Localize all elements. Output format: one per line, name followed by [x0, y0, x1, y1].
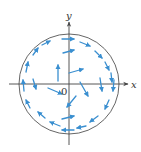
vector-arrow-icon [23, 80, 24, 91]
x-axis-label: x [131, 79, 137, 90]
vector-arrow-icon [100, 78, 102, 91]
vector-arrow-icon [69, 69, 83, 73]
vector-arrow-icon [50, 122, 60, 126]
vector-arrow-icon [26, 62, 28, 72]
vector-arrow-icon [111, 73, 112, 82]
vector-arrow-icon [67, 96, 76, 107]
vector-arrow-icon [105, 100, 109, 109]
vector-arrow-icon [113, 80, 114, 91]
vector-arrow-icon [62, 116, 74, 119]
vector-arrow-icon [77, 126, 86, 128]
vector-arrows [23, 39, 114, 130]
vector-field-plot: x y 0 [0, 0, 141, 152]
vector-arrow-icon [38, 112, 45, 118]
vector-field-figure: x y 0 [0, 0, 141, 152]
origin-label: 0 [61, 86, 67, 97]
vector-arrow-icon [63, 50, 74, 53]
vector-arrow-icon [80, 42, 90, 46]
vector-arrow-icon [90, 116, 98, 122]
vector-arrow-icon [26, 100, 30, 108]
y-axis-label: y [65, 10, 72, 21]
vector-arrow-icon [105, 62, 109, 70]
vector-arrow-icon [48, 88, 62, 94]
vector-arrow-icon [95, 51, 102, 58]
